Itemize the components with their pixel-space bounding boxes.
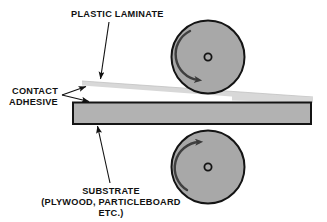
bottom-roller	[172, 131, 245, 204]
substrate-leader	[98, 126, 111, 183]
roller-hub-icon	[204, 163, 211, 170]
substrate-body	[73, 103, 311, 125]
contact-adhesive-leader-upper	[62, 87, 86, 96]
substrate-label-line1: SUBSTRATE	[82, 186, 140, 196]
contact-adhesive-leaders	[62, 87, 89, 102]
top-roller	[172, 21, 245, 94]
contact-adhesive-label-line1: CONTACT	[12, 86, 58, 96]
substrate-leader-line	[98, 126, 111, 183]
substrate-label-line2: (PLYWOOD, PARTICLEBOARD	[41, 197, 181, 207]
contact-adhesive-leader-lower	[62, 95, 89, 102]
plastic-laminate-leader	[101, 22, 110, 79]
plastic-laminate-leader-line	[101, 22, 110, 79]
substrate-label-line3: ETC.)	[98, 208, 123, 218]
laminate-press-diagram: PLASTIC LAMINATE CONTACT ADHESIVE SUBSTR…	[0, 0, 327, 222]
roller-hub-icon	[204, 53, 211, 60]
substrate-bar	[73, 103, 311, 125]
diagram-canvas: PLASTIC LAMINATE CONTACT ADHESIVE SUBSTR…	[0, 0, 327, 222]
plastic-laminate-label: PLASTIC LAMINATE	[71, 9, 164, 19]
contact-adhesive-label-line2: ADHESIVE	[9, 97, 58, 107]
